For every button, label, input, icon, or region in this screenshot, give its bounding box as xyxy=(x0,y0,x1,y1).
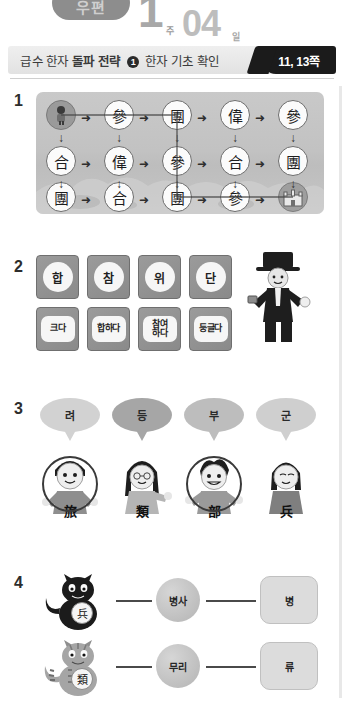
q4-cat-hanja-0: 兵 xyxy=(71,602,93,624)
q4-group: 兵 병사 병 類 무리 xyxy=(30,570,330,702)
meaning-card-label-0: 크다 xyxy=(41,316,75,342)
arrow-right-r1c2: ➜ xyxy=(197,158,207,170)
question-number-1: 1 xyxy=(14,92,23,110)
maze-cell-r1c1: 偉 xyxy=(104,146,134,176)
mail-pill-label: 우편 xyxy=(52,0,130,20)
header-step-badge: 1 xyxy=(127,56,139,68)
q3-kid-1: 類 xyxy=(111,450,173,524)
maze-start-cell xyxy=(46,100,76,130)
sound-card-label-2: 위 xyxy=(145,262,175,292)
q3-answer-circle-0 xyxy=(42,456,98,512)
arrow-right-r2c1: ➜ xyxy=(139,194,149,206)
q3-kid-hanja-1: 類 xyxy=(111,501,173,520)
maze-cell-r1c0: 合 xyxy=(46,146,76,176)
sound-card-3: 단 xyxy=(189,255,232,299)
arrow-right-r1c0: ➜ xyxy=(81,158,91,170)
q3-answer-circle-2 xyxy=(186,456,242,512)
arrow-down-r1c0: ↓ xyxy=(58,178,64,190)
header-title-bold: 돌파 전략 xyxy=(72,55,121,69)
q4-row-1: 類 무리 류 xyxy=(30,636,330,698)
arrow-down-r0c1: ↓ xyxy=(116,132,122,144)
q3-kid-hanja-3: 兵 xyxy=(255,501,317,520)
q3-kid-2: 部 xyxy=(183,450,245,524)
arrow-right-r0c3: ➜ xyxy=(255,112,265,124)
speech-bubble-0: 려 xyxy=(40,398,100,432)
q4-cat-hanja-1: 類 xyxy=(71,668,93,690)
maze-cell-r1c4: 團 xyxy=(278,146,308,176)
q4-sound-cushion-1: 류 xyxy=(260,642,318,690)
meaning-card-label-2: 참여 하다 xyxy=(143,316,177,342)
sound-card-label-3: 단 xyxy=(196,262,226,292)
arrow-down-r0c2: ↓ xyxy=(174,132,180,144)
arrow-right-r0c2: ➜ xyxy=(197,112,207,124)
day-number: 04 xyxy=(182,6,220,42)
maze-cell-r0c1: 參 xyxy=(104,100,134,130)
arrow-right-r0c0: ➜ xyxy=(81,112,91,124)
q1-maze-panel: 參 團 偉 參 合 偉 參 合 團 團 合 團 參 xyxy=(36,92,324,214)
arrow-right-r2c0: ➜ xyxy=(81,194,91,206)
page-reference-label: 11, 13쪽 xyxy=(278,52,320,69)
q4-connector-left-0 xyxy=(116,600,152,602)
question-number-2: 2 xyxy=(14,258,23,276)
page-reference-badge: 11, 13쪽 xyxy=(262,46,336,74)
week-unit-label: 주 xyxy=(166,24,174,37)
question-number-3: 3 xyxy=(14,400,23,418)
arrow-right-r1c3: ➜ xyxy=(255,158,265,170)
header-divider xyxy=(10,78,334,79)
q4-connector-left-1 xyxy=(116,666,152,668)
sound-card-0: 합 xyxy=(36,255,79,299)
page-edge-shadow xyxy=(339,86,342,698)
meaning-card-1: 합하다 xyxy=(87,307,130,351)
section-header: 급수 한자 돌파 전략 1 한자 기초 확인 11, 13쪽 xyxy=(8,46,336,74)
arrow-down-r0c4: ↓ xyxy=(290,132,296,144)
maze-cell-r1c3: 合 xyxy=(220,146,250,176)
maze-cell-r0c2: 團 xyxy=(162,100,192,130)
q3-kid-3: 兵 xyxy=(255,450,317,524)
day-unit-label: 일 xyxy=(232,30,240,43)
arrow-right-r1c1: ➜ xyxy=(139,158,149,170)
maze-cell-r1c2: 參 xyxy=(162,146,192,176)
speech-bubble-3: 군 xyxy=(256,398,316,432)
maze-cell-r0c3: 偉 xyxy=(220,100,250,130)
arrow-down-r1c4: ↓ xyxy=(290,178,296,190)
q4-meaning-ball-1: 무리 xyxy=(156,644,200,688)
sound-card-label-0: 합 xyxy=(43,262,73,292)
sound-card-1: 참 xyxy=(87,255,130,299)
q4-meaning-ball-0: 병사 xyxy=(156,578,200,622)
magician-icon xyxy=(243,246,315,344)
meaning-card-2: 참여 하다 xyxy=(138,307,181,351)
maze-grid: 參 團 偉 參 合 偉 參 合 團 團 合 團 參 xyxy=(36,92,324,214)
q4-connector-right-1 xyxy=(206,666,256,668)
maze-cell-r0c4: 參 xyxy=(278,100,308,130)
worksheet-page: 우편 1 주 04 일 급수 한자 돌파 전략 1 한자 기초 확인 11, 1… xyxy=(0,0,344,707)
header-title-prefix: 급수 한자 xyxy=(20,55,69,69)
top-banner: 우편 1 주 04 일 xyxy=(0,0,344,46)
q4-row-0: 兵 병사 병 xyxy=(30,570,330,632)
arrow-right-r2c3: ➜ xyxy=(255,194,265,206)
arrow-down-r1c2: ↓ xyxy=(174,178,180,190)
arrow-down-r0c3: ↓ xyxy=(232,132,238,144)
meaning-card-3: 둥글다 xyxy=(189,307,232,351)
q4-sound-cushion-0: 병 xyxy=(260,576,318,624)
meaning-card-label-1: 합하다 xyxy=(92,316,126,342)
sound-card-2: 위 xyxy=(138,255,181,299)
meaning-card-0: 크다 xyxy=(36,307,79,351)
header-title-suffix: 한자 기초 확인 xyxy=(145,55,220,69)
arrow-right-r2c2: ➜ xyxy=(197,194,207,206)
arrow-right-r0c1: ➜ xyxy=(139,112,149,124)
arrow-down-r1c3: ↓ xyxy=(232,178,238,190)
sound-card-label-1: 참 xyxy=(94,262,124,292)
week-number: 1 xyxy=(138,0,162,34)
header-title: 급수 한자 돌파 전략 1 한자 기초 확인 xyxy=(8,51,220,70)
speech-bubble-2: 부 xyxy=(184,398,244,432)
q4-connector-right-0 xyxy=(206,600,256,602)
question-number-4: 4 xyxy=(14,574,23,592)
arrow-down-r1c1: ↓ xyxy=(116,178,122,190)
arrow-down-r0c0: ↓ xyxy=(58,132,64,144)
q3-kid-0: 旅 xyxy=(39,450,101,524)
speech-bubble-1: 등 xyxy=(112,398,172,432)
child-icon xyxy=(50,104,72,126)
q3-group: 려 등 부 군 旅 xyxy=(36,398,326,548)
meaning-card-label-3: 둥글다 xyxy=(194,316,228,342)
